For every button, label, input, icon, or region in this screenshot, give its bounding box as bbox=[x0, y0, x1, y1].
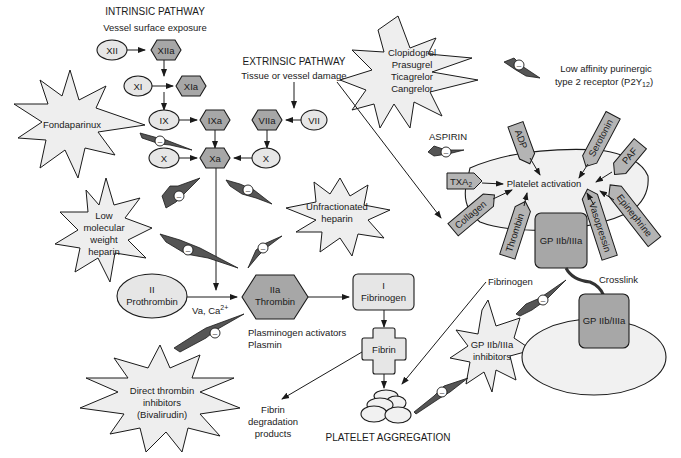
fibrinogen-bridge-label: Fibrinogen bbox=[488, 276, 533, 287]
inhibition-bolt-lmwh-thrombin: – bbox=[160, 234, 238, 268]
svg-text:Direct thrombin: Direct thrombin bbox=[130, 385, 194, 396]
inhibition-bolt-dti: – bbox=[174, 314, 244, 352]
inhibition-bolt-ufh-thrombin: – bbox=[248, 236, 282, 268]
plasmin-label: Plasmin bbox=[248, 339, 282, 350]
svg-text:–: – bbox=[261, 244, 266, 253]
svg-text:weight: weight bbox=[89, 234, 118, 245]
svg-text:–: – bbox=[517, 61, 522, 70]
crosslink-label: Crosslink bbox=[599, 274, 638, 285]
svg-text:–: – bbox=[444, 148, 449, 157]
svg-text:–: – bbox=[158, 137, 163, 146]
svg-text:GP IIb/IIIa: GP IIb/IIIa bbox=[583, 315, 626, 326]
extrinsic-pathway-heading: EXTRINSIC PATHWAY bbox=[243, 56, 346, 67]
svg-text:Ticagrelor: Ticagrelor bbox=[391, 71, 433, 82]
svg-text:Clopidogrel: Clopidogrel bbox=[388, 47, 436, 58]
fdp-label-1: Fibrin bbox=[261, 404, 285, 415]
svg-text:Cangrelor: Cangrelor bbox=[391, 83, 433, 94]
platelet-activation-label: Platelet activation bbox=[507, 178, 581, 189]
extrinsic-pathway-subheading: Tissue or vessel damage bbox=[241, 70, 346, 81]
factor-iia-thrombin: IIa Thrombin bbox=[242, 275, 308, 319]
cofactors-label: Va, Ca2+ bbox=[192, 304, 228, 316]
factor-ix: IX bbox=[149, 110, 179, 130]
svg-text:IIa: IIa bbox=[270, 284, 281, 295]
factor-xi: XI bbox=[124, 76, 152, 96]
svg-text:inhibitors: inhibitors bbox=[473, 351, 511, 362]
drug-lmwh: Low molecular weight heparin bbox=[55, 178, 152, 282]
svg-text:VIIa: VIIa bbox=[259, 115, 277, 126]
factor-ixa: IXa bbox=[200, 110, 230, 130]
svg-text:XIa: XIa bbox=[184, 81, 199, 92]
svg-text:Prothrombin: Prothrombin bbox=[126, 296, 178, 307]
svg-text:inhibitors: inhibitors bbox=[143, 397, 181, 408]
svg-text:Xa: Xa bbox=[209, 153, 221, 164]
svg-text:II: II bbox=[149, 284, 154, 295]
svg-text:I: I bbox=[382, 280, 385, 291]
svg-text:GP IIb/IIIa: GP IIb/IIIa bbox=[471, 339, 514, 350]
svg-text:X: X bbox=[263, 153, 270, 164]
svg-text:Fondaparinux: Fondaparinux bbox=[43, 119, 101, 130]
drug-p2y12-inhibitors: Clopidogrel Prasugrel Ticagrelor Cangrel… bbox=[340, 16, 478, 128]
svg-text:Prasugrel: Prasugrel bbox=[392, 59, 433, 70]
svg-text:IX: IX bbox=[160, 115, 170, 126]
fdp-label-2: degradation bbox=[248, 416, 298, 427]
svg-text:XII: XII bbox=[106, 45, 118, 56]
svg-text:(Bivalirudin): (Bivalirudin) bbox=[137, 409, 187, 420]
coagulation-diagram: INTRINSIC PATHWAY Vessel surface exposur… bbox=[0, 0, 681, 458]
svg-text:X: X bbox=[161, 153, 168, 164]
svg-text:–: – bbox=[541, 296, 546, 305]
factor-x-extrinsic: X bbox=[252, 148, 280, 168]
fdp-label-3: products bbox=[255, 428, 292, 439]
svg-text:XIIa: XIIa bbox=[158, 45, 176, 56]
factor-ii-prothrombin: II Prothrombin bbox=[117, 274, 187, 318]
svg-text:Thrombin: Thrombin bbox=[255, 296, 295, 307]
factor-xii: XII bbox=[97, 40, 127, 60]
platelet-aggregate-icon bbox=[361, 390, 411, 423]
svg-text:–: – bbox=[246, 186, 251, 195]
factor-vii: VII bbox=[301, 110, 327, 130]
inhibition-bolt-gp-aggregation: – bbox=[414, 378, 468, 414]
svg-text:–: – bbox=[213, 329, 218, 338]
intrinsic-pathway-subheading: Vessel surface exposure bbox=[103, 22, 207, 33]
agonist-txa2: TXA2 bbox=[447, 173, 482, 189]
factor-viia: VIIa bbox=[252, 110, 282, 130]
plasminogen-activators-label: Plasminogen activators bbox=[248, 327, 346, 338]
svg-text:–: – bbox=[186, 246, 191, 255]
p2y12-receptor-label-2: type 2 receptor (P2Y12) bbox=[555, 76, 653, 88]
svg-text:IXa: IXa bbox=[208, 115, 223, 126]
platelet-aggregation-label: PLATELET AGGREGATION bbox=[325, 432, 450, 443]
factor-x-intrinsic: X bbox=[149, 148, 179, 168]
factor-i-fibrinogen: I Fibrinogen bbox=[353, 274, 414, 310]
inhibition-bolt-aspirin: – bbox=[428, 146, 464, 157]
svg-text:GP IIb/IIIa: GP IIb/IIIa bbox=[540, 235, 583, 246]
svg-text:–: – bbox=[440, 388, 445, 397]
svg-text:Unfractionated: Unfractionated bbox=[306, 201, 368, 212]
factor-xia: XIa bbox=[176, 76, 206, 96]
intrinsic-pathway-heading: INTRINSIC PATHWAY bbox=[105, 6, 205, 17]
inhibition-bolt-p2y12: – bbox=[504, 58, 540, 78]
p2y12-receptor-label-1: Low affinity purinergic bbox=[560, 63, 652, 74]
svg-text:VII: VII bbox=[308, 115, 320, 126]
drug-unfractionated-heparin: Unfractionated heparin bbox=[286, 178, 390, 256]
fibrin: Fibrin bbox=[362, 328, 406, 374]
gp-iib-iiia-receptor-2: GP IIb/IIIa bbox=[579, 294, 629, 348]
aspirin-label: ASPIRIN bbox=[429, 131, 467, 142]
drug-direct-thrombin-inhibitors: Direct thrombin inhibitors (Bivalirudin) bbox=[80, 345, 240, 452]
inhibition-bolt-fondaparinux: – bbox=[140, 133, 192, 150]
inhibition-bolt-lmwh-xa: – bbox=[162, 178, 200, 208]
svg-text:XI: XI bbox=[134, 81, 143, 92]
factor-xiia: XIIa bbox=[151, 40, 181, 60]
svg-text:–: – bbox=[177, 192, 182, 201]
svg-text:molecular: molecular bbox=[83, 222, 124, 233]
svg-text:Fibrin: Fibrin bbox=[372, 344, 396, 355]
svg-text:heparin: heparin bbox=[88, 246, 120, 257]
factor-xa: Xa bbox=[200, 148, 230, 168]
svg-text:heparin: heparin bbox=[321, 213, 353, 224]
svg-text:Fibrinogen: Fibrinogen bbox=[361, 292, 406, 303]
inhibition-bolt-ufh-xa: – bbox=[226, 180, 272, 204]
gp-iib-iiia-receptor-1: GP IIb/IIIa bbox=[535, 213, 587, 268]
svg-text:Low: Low bbox=[95, 210, 113, 221]
